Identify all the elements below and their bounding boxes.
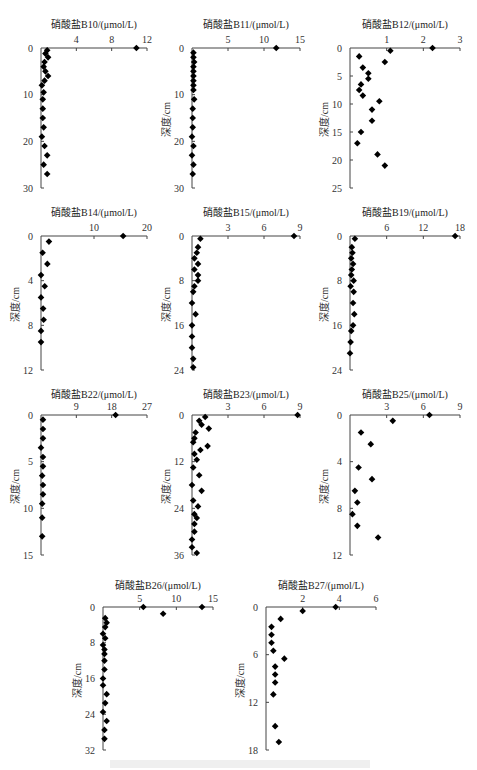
data-point-diamond — [281, 655, 288, 662]
data-point-diamond — [272, 723, 279, 730]
x-tick-label: 6 — [374, 593, 379, 604]
x-tick-label: 4 — [337, 593, 342, 604]
data-point-diamond — [268, 639, 275, 646]
figure-caption-faint — [110, 760, 370, 768]
y-tick-label: 6 — [253, 649, 258, 660]
plot-area: 246061218 — [0, 0, 477, 770]
data-point-diamond — [272, 679, 279, 686]
y-tick-label: 0 — [253, 602, 258, 613]
y-tick-label: 12 — [248, 697, 258, 708]
data-point-diamond — [272, 663, 279, 670]
data-point-diamond — [272, 671, 279, 678]
x-tick-label: 2 — [300, 593, 305, 604]
data-point-diamond — [268, 624, 275, 631]
data-point-diamond — [270, 691, 277, 698]
y-tick-label: 18 — [248, 745, 258, 756]
data-point-diamond — [268, 632, 275, 639]
data-point-diamond — [299, 608, 306, 615]
data-point-diamond — [276, 739, 283, 746]
data-point-diamond — [332, 604, 339, 611]
data-point-diamond — [270, 647, 277, 654]
data-point-diamond — [277, 616, 284, 623]
